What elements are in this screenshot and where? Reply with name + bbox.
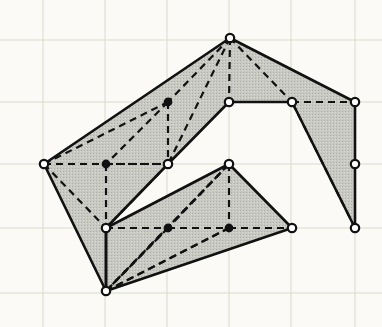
vertex-marker-filled <box>164 98 171 105</box>
vertex-marker-open <box>225 160 233 168</box>
vertex-marker-filled <box>225 224 232 231</box>
vertex-marker-open <box>351 98 359 106</box>
vertex-marker-open <box>288 98 296 106</box>
vertex-marker-open <box>102 287 110 295</box>
vertex-marker-open <box>225 98 233 106</box>
vertex-marker-open <box>351 160 359 168</box>
vertex-marker-open <box>288 224 296 232</box>
vertex-marker-open <box>102 224 110 232</box>
vertex-marker-open <box>164 160 172 168</box>
vertex-marker-open <box>226 34 234 42</box>
vertex-marker-open <box>40 160 48 168</box>
vertex-marker-filled <box>102 160 109 167</box>
vertex-marker-filled <box>164 224 171 231</box>
diagram-canvas <box>0 0 382 327</box>
polygon-triangulation-figure: Triangulated simple polygon diagram Two … <box>0 0 382 327</box>
vertex-marker-open <box>351 224 359 232</box>
